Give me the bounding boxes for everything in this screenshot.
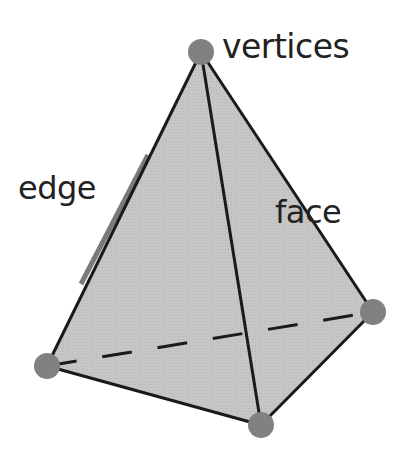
edge-label: edge bbox=[18, 172, 96, 204]
vertex-right bbox=[360, 299, 386, 325]
tetrahedron-figure bbox=[0, 0, 410, 454]
vertex-top bbox=[188, 39, 214, 65]
face-label: face bbox=[275, 196, 341, 228]
vertices-label: vertices bbox=[222, 30, 349, 63]
tetrahedron-diagram: vertices edge face bbox=[0, 0, 410, 454]
vertex-bottom bbox=[248, 412, 274, 438]
vertex-left bbox=[34, 353, 60, 379]
